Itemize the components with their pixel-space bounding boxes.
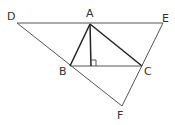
label-B: B: [59, 65, 67, 78]
segment-EF: [122, 23, 163, 106]
label-D: D: [7, 10, 15, 23]
right-angle-icon: [91, 60, 96, 66]
altitude-AH: [90, 24, 91, 66]
segment-DF: [17, 23, 122, 106]
label-C: C: [144, 65, 152, 78]
segment-AC: [90, 24, 142, 66]
diagram-svg: D A E B C F: [0, 0, 175, 125]
geometry-diagram: D A E B C F: [0, 0, 175, 125]
label-E: E: [162, 12, 169, 25]
segment-AB: [70, 24, 90, 66]
label-A: A: [86, 7, 94, 20]
label-F: F: [117, 109, 123, 122]
